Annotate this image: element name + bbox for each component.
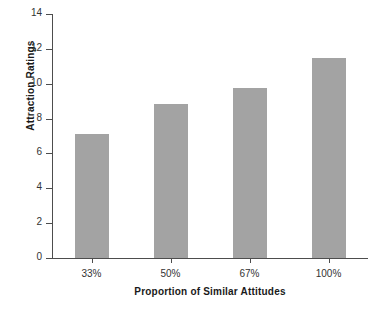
x-axis-tick — [329, 258, 330, 263]
y-axis-tick-label: 12 — [31, 42, 42, 53]
y-axis-tick-label: 4 — [36, 181, 42, 192]
bar — [75, 134, 109, 258]
y-axis-tick-label: 2 — [36, 216, 42, 227]
bar-chart-figure: Attraction Ratings 0246810121433%50%67%1… — [0, 0, 389, 310]
x-axis-tick — [250, 258, 251, 263]
y-axis-tick: 4 — [46, 188, 52, 189]
x-axis-tick — [92, 258, 93, 263]
x-axis-title: Proportion of Similar Attitudes — [52, 286, 368, 297]
x-axis-tick-label: 67% — [215, 268, 285, 279]
x-axis-tick — [171, 258, 172, 263]
y-axis-tick: 6 — [46, 153, 52, 154]
y-axis-tick: 12 — [46, 49, 52, 50]
y-axis-tick: 0 — [46, 258, 52, 259]
y-axis-tick: 2 — [46, 223, 52, 224]
y-axis-tick-label: 6 — [36, 146, 42, 157]
y-axis-line — [52, 14, 53, 258]
y-axis-tick-label: 10 — [31, 77, 42, 88]
y-axis-tick-label: 8 — [36, 112, 42, 123]
x-axis-line — [52, 258, 368, 259]
bar — [154, 104, 188, 258]
plot-area: 0246810121433%50%67%100% — [52, 14, 368, 258]
x-axis-tick-label: 100% — [294, 268, 364, 279]
bar — [312, 58, 346, 258]
bar — [233, 88, 267, 258]
x-axis-tick-label: 33% — [57, 268, 127, 279]
y-axis-tick: 10 — [46, 84, 52, 85]
x-axis-tick-label: 50% — [136, 268, 206, 279]
y-axis-tick-label: 0 — [36, 251, 42, 262]
y-axis-tick: 8 — [46, 119, 52, 120]
y-axis-tick: 14 — [46, 14, 52, 15]
y-axis-tick-label: 14 — [31, 7, 42, 18]
